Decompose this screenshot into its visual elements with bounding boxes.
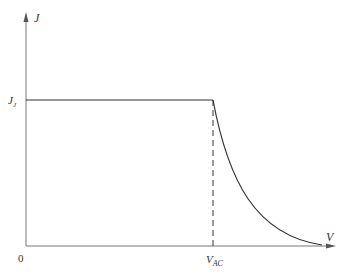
jv-decay-curve (213, 100, 322, 245)
x-axis-arrow-icon (326, 244, 336, 249)
y-axis-label: J (34, 11, 40, 25)
jv-diagram: J V 0 JJ VAC (0, 0, 337, 276)
y-axis-arrow-icon (24, 12, 29, 22)
x-axis-label: V (326, 230, 335, 244)
origin-label: 0 (18, 252, 24, 264)
jj-label: JJ (8, 94, 17, 109)
vac-label: VAC (206, 253, 224, 268)
